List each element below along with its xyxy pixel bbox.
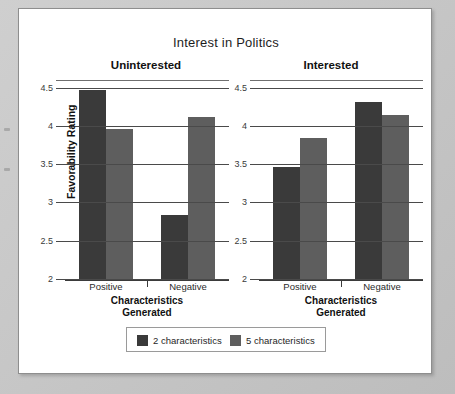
gridline: 4.5 <box>56 88 229 89</box>
bar <box>106 129 133 280</box>
x-axis-separator-tick <box>341 280 342 287</box>
gridline: 3 <box>56 202 229 203</box>
page-edge-artifacts <box>0 0 18 394</box>
bar <box>188 117 215 280</box>
bar <box>355 102 382 280</box>
gridline: 2 <box>250 279 423 280</box>
gridline: 2.5 <box>56 241 229 242</box>
bar <box>161 215 188 280</box>
legend-swatch-icon <box>137 335 148 346</box>
y-axis-tick-label: 3 <box>48 198 53 208</box>
x-axis-tick-label: Positive <box>89 281 122 292</box>
chart-legend: 2 characteristics 5 characteristics <box>126 327 326 352</box>
x-axis-title-line1: Characteristics <box>111 295 183 306</box>
x-axis-tick-label: Positive <box>283 281 316 292</box>
bar <box>300 138 327 280</box>
bar <box>382 115 409 280</box>
figure-root: Interest in Politics Uninterested 4.543.… <box>0 0 455 394</box>
x-axis-title-line1: Characteristics <box>305 295 377 306</box>
bar-group-uninterested <box>65 81 229 280</box>
legend-label: 5 characteristics <box>246 335 315 346</box>
y-axis-title: Favorability Rating <box>65 104 77 199</box>
y-axis-tick-label: 3 <box>242 198 247 208</box>
gridline: 2 <box>56 279 229 280</box>
y-axis-tick-label: 4 <box>242 121 247 131</box>
y-axis-tick-label: 2 <box>48 274 53 284</box>
y-axis-tick-label: 2.5 <box>40 236 53 246</box>
y-axis-tick-label: 4.5 <box>40 83 53 93</box>
y-axis-tick-label: 3.5 <box>234 159 247 169</box>
bar-group-interested <box>259 81 423 280</box>
x-axis-title-line2: Generated <box>122 307 171 318</box>
x-axis-separator-tick <box>147 280 148 287</box>
panel-uninterested: Uninterested 4.543.532.52 PositiveNegati… <box>41 59 233 309</box>
gridline: 3 <box>250 202 423 203</box>
x-axis-tick-label: Negative <box>169 281 207 292</box>
panel-header-interested: Interested <box>235 59 427 71</box>
gridline: 2.5 <box>250 241 423 242</box>
y-axis-tick-label: 2.5 <box>234 236 247 246</box>
y-axis-tick-label: 4.5 <box>234 83 247 93</box>
legend-swatch-icon <box>230 335 241 346</box>
panel-interested: Interested 4.543.532.52 PositiveNegative… <box>235 59 427 309</box>
plot-area-uninterested: 4.543.532.52 <box>65 81 229 281</box>
x-axis-title-uninterested: Characteristics Generated <box>65 295 229 319</box>
gridline: 4.5 <box>250 88 423 89</box>
bar <box>79 90 106 280</box>
panel-header-uninterested: Uninterested <box>41 59 233 71</box>
legend-item-2-characteristics[interactable]: 2 characteristics <box>137 333 222 347</box>
x-axis-title-interested: Characteristics Generated <box>259 295 423 319</box>
bar <box>273 167 300 280</box>
chart-title: Interest in Politics <box>19 35 433 50</box>
plot-top-rule <box>250 80 423 81</box>
plot-top-rule <box>56 80 229 81</box>
plot-area-interested: 4.543.532.52 <box>259 81 423 281</box>
gridline: 4 <box>56 126 229 127</box>
figure-card: Interest in Politics Uninterested 4.543.… <box>18 8 432 374</box>
gridline: 3.5 <box>250 164 423 165</box>
legend-item-5-characteristics[interactable]: 5 characteristics <box>230 333 315 347</box>
x-axis-tick-label: Negative <box>363 281 401 292</box>
gridline: 4 <box>250 126 423 127</box>
gridline: 3.5 <box>56 164 229 165</box>
y-axis-tick-label: 2 <box>242 274 247 284</box>
x-axis-title-line2: Generated <box>316 307 365 318</box>
legend-label: 2 characteristics <box>153 335 222 346</box>
y-axis-tick-label: 3.5 <box>40 159 53 169</box>
y-axis-tick-label: 4 <box>48 121 53 131</box>
chart-panels: Uninterested 4.543.532.52 PositiveNegati… <box>19 59 433 309</box>
